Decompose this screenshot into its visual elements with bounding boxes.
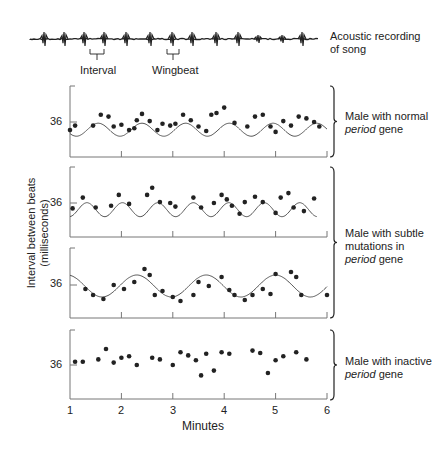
data-point [96,357,101,362]
data-point [268,292,273,297]
data-point [294,275,299,280]
data-point [135,363,140,368]
data-point [261,113,266,118]
data-point [199,373,204,378]
ytick-36-panel2: 36 [50,196,62,209]
data-point [253,194,258,199]
data-point [194,358,199,363]
ytick-36-panel4: 36 [50,358,62,371]
data-point [178,350,183,355]
data-point [173,122,178,127]
data-point [70,206,75,211]
data-point [171,295,176,300]
data-point [119,122,124,127]
data-point [160,289,165,294]
data-point [227,288,232,293]
data-point [81,195,86,200]
data-point [196,124,201,129]
data-point [127,202,132,207]
data-point [212,201,217,206]
data-point [232,293,237,298]
data-point [109,203,114,208]
data-point [122,287,127,292]
interval-label: Interval [80,64,116,77]
wingbeat-bracket [167,49,179,60]
data-point [127,128,132,133]
data-point [304,357,309,362]
data-point [230,203,235,208]
data-point [68,128,73,133]
chart-canvas [0,0,441,449]
legend-normal: Male with normal period gene [345,110,428,136]
data-point [245,124,250,129]
data-point [325,293,330,298]
data-point [83,287,88,292]
data-point [243,200,248,205]
data-point [127,354,132,359]
data-point [219,350,224,355]
ytick-36-panel1: 36 [50,115,62,128]
data-point [132,126,137,131]
data-point [191,195,196,200]
interval-bracket [90,49,104,60]
xtick-6: 6 [324,404,330,417]
data-point [261,287,266,292]
data-point [250,348,255,353]
data-point [199,205,204,210]
data-point [209,113,214,118]
data-point [237,212,242,217]
data-point [171,363,176,368]
data-point [266,371,271,376]
brace-normal [330,86,337,157]
data-point [111,283,116,288]
data-point [291,205,296,210]
data-point [147,273,152,278]
data-point [286,191,291,196]
data-point [101,297,106,302]
wingbeat-label: Wingbeat [152,64,198,77]
xtick-3: 3 [170,404,176,417]
data-point [147,119,152,124]
data-point [81,360,86,365]
data-point [281,119,286,124]
data-point [278,195,283,200]
data-point [317,124,322,129]
panel-frame [70,330,327,399]
brace-subtle [330,167,337,318]
legend-subtle: Male with subtle mutations in period gen… [345,227,424,266]
data-point [299,293,304,298]
ytick-36-panel3: 36 [50,277,62,290]
data-point [225,197,230,202]
data-point [168,201,173,206]
data-point [219,193,224,198]
data-point [181,113,186,118]
data-point [178,299,183,304]
data-point [273,211,278,216]
data-point [150,356,155,361]
data-point [312,196,317,201]
data-point [173,204,178,209]
data-point [296,114,301,119]
data-point [99,113,104,118]
data-point [294,350,299,355]
data-point [168,123,173,128]
data-point [91,293,96,298]
data-point [204,352,209,357]
data-point [73,360,78,365]
xtick-1: 1 [67,404,73,417]
panel-frame [70,86,327,157]
data-point [93,205,98,210]
data-point [302,209,307,214]
data-point [158,357,163,362]
data-point [158,200,163,205]
data-point [186,353,191,358]
x-axis-label: Minutes [182,420,224,433]
xtick-5: 5 [272,404,278,417]
data-point [273,358,278,363]
data-point [106,114,111,119]
legend-inactive: Male with inactive period gene [345,355,432,381]
data-point [150,185,155,190]
data-point [289,123,294,128]
brace-inactive [330,330,337,400]
data-point [289,270,294,275]
